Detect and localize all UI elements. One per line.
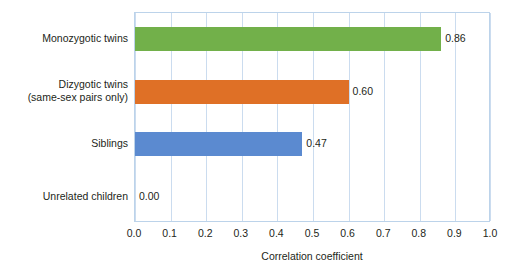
bar-chart: Monozygotic twins Dizygotic twins (same-… bbox=[0, 0, 517, 270]
category-label-dizygotic-twins: Dizygotic twins (same-sex pairs only) bbox=[0, 78, 128, 103]
gridline-1.0 bbox=[490, 13, 491, 221]
x-tick-label-0.0: 0.0 bbox=[127, 226, 142, 240]
x-tick-label-0.7: 0.7 bbox=[376, 226, 391, 240]
x-axis-title: Correlation coefficient bbox=[134, 249, 490, 263]
bar-dizygotic-twins-same-sex-pairs-only[interactable] bbox=[135, 80, 349, 104]
x-tick-label-0.3: 0.3 bbox=[233, 226, 248, 240]
value-label-unrelated-children: 0.00 bbox=[139, 190, 159, 202]
category-label-monozygotic-twins: Monozygotic twins bbox=[0, 32, 128, 45]
category-label-unrelated-children: Unrelated children bbox=[0, 190, 128, 203]
x-tick-label-0.1: 0.1 bbox=[162, 226, 177, 240]
bar-monozygotic-twins[interactable] bbox=[135, 27, 441, 51]
x-tick-label-0.6: 0.6 bbox=[340, 226, 355, 240]
value-label-siblings: 0.47 bbox=[306, 137, 326, 149]
x-tick-label-0.5: 0.5 bbox=[305, 226, 320, 240]
category-label-siblings: Siblings bbox=[0, 137, 128, 150]
x-axis-tick-labels: 0.00.10.20.30.40.50.60.70.80.91.0 bbox=[134, 226, 490, 242]
bar-siblings[interactable] bbox=[135, 132, 302, 156]
x-tick-label-0.4: 0.4 bbox=[269, 226, 284, 240]
x-tick-label-1.0: 1.0 bbox=[483, 226, 498, 240]
x-tick-label-0.8: 0.8 bbox=[411, 226, 426, 240]
plot-area bbox=[134, 12, 490, 222]
value-label-dizygotic-twins-same-sex-pairs-only: 0.60 bbox=[353, 85, 373, 97]
category-axis-labels: Monozygotic twins Dizygotic twins (same-… bbox=[0, 12, 128, 222]
value-label-monozygotic-twins: 0.86 bbox=[445, 32, 465, 44]
x-tick-label-0.9: 0.9 bbox=[447, 226, 462, 240]
x-tick-label-0.2: 0.2 bbox=[198, 226, 213, 240]
